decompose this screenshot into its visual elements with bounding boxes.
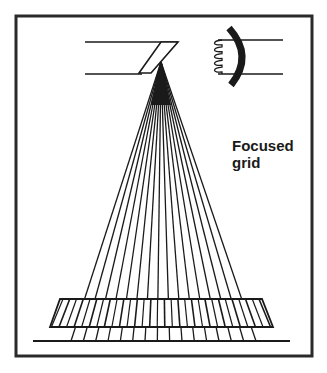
xray-ray	[95, 62, 161, 299]
xray-ray-transmitted	[228, 327, 232, 341]
label-line-1: Focused	[232, 137, 294, 154]
xray-ray-transmitted	[204, 327, 206, 341]
xray-ray	[106, 62, 161, 299]
cathode	[215, 28, 284, 85]
xray-ray-transmitted	[96, 327, 99, 341]
xray-ray-transmitted	[240, 327, 244, 341]
cathode-cup-icon	[229, 28, 242, 85]
xray-ray	[161, 62, 231, 299]
focused-grid-diagram	[0, 0, 327, 373]
xray-ray-transmitted	[108, 327, 111, 341]
xray-ray-transmitted	[133, 327, 134, 341]
xray-ray-transmitted	[251, 327, 256, 341]
filament-coil-icon	[215, 40, 223, 74]
xray-beam-transmitted	[71, 327, 256, 341]
xray-ray-transmitted	[181, 327, 182, 341]
focused-grid	[50, 299, 273, 327]
label-line-2: grid	[232, 154, 294, 171]
xray-ray-transmitted	[83, 327, 87, 341]
xray-ray-transmitted	[71, 327, 76, 341]
xray-ray-transmitted	[145, 327, 146, 341]
xray-ray-transmitted	[120, 327, 122, 341]
xray-ray-transmitted	[216, 327, 219, 341]
xray-ray-transmitted	[193, 327, 195, 341]
xray-ray	[161, 62, 242, 299]
focused-grid-label: Focused grid	[232, 137, 294, 171]
